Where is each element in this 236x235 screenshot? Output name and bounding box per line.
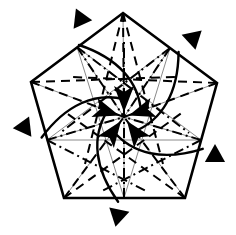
- crease-pattern-figure: [0, 0, 236, 235]
- pentagon-crease-pattern-svg: [0, 0, 236, 235]
